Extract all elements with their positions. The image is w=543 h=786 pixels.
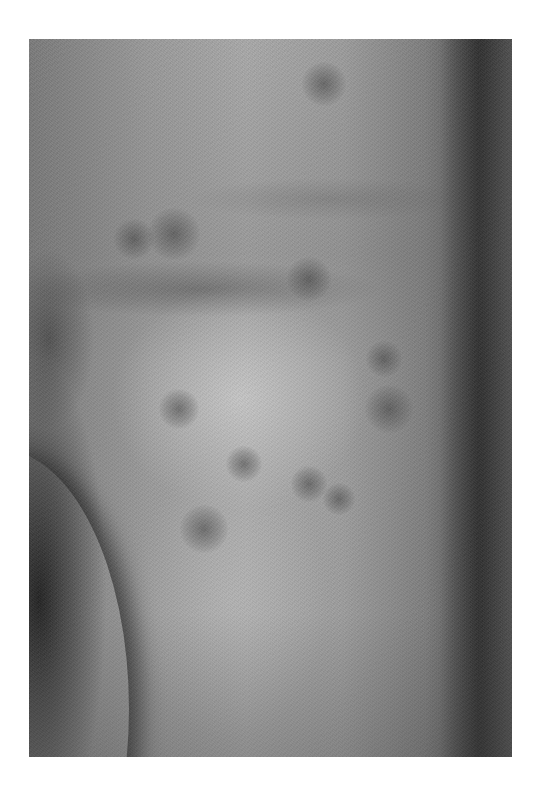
thigh-hair-shading — [29, 39, 512, 757]
clinical-skin-photograph — [29, 39, 512, 757]
